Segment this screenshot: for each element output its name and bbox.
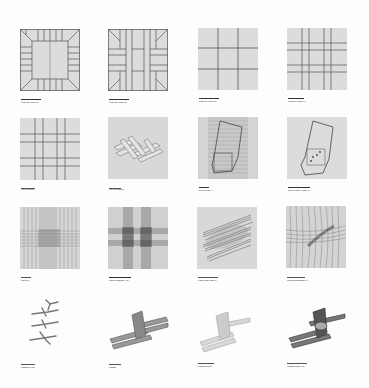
caption-bar — [21, 364, 35, 365]
tile-caption: LINE DRAWING 03 — [199, 100, 216, 102]
stacked-branches-render — [18, 298, 84, 354]
site-outline-points-drawing — [287, 117, 347, 179]
caption-bar — [198, 277, 218, 278]
tile-caption: FIELD INTENSITY 02 — [109, 279, 128, 281]
tile-caption: SITE OVERLAY — [199, 189, 213, 191]
tile-caption: LINE DRAWING 02 — [109, 101, 126, 103]
dark-bundle-model — [285, 304, 351, 360]
woven-model-render — [108, 117, 168, 179]
dense-field-light-drawing — [20, 207, 80, 269]
tile-caption: LINE DRAWING 04 — [288, 100, 305, 102]
caption-bar — [109, 277, 131, 278]
caption-bar — [287, 277, 305, 278]
bevel-corner-grid-drawing — [20, 29, 80, 91]
translucent-bundle-render — [196, 308, 262, 364]
line-drawing-tile-1 — [20, 29, 80, 91]
line-drawing-tile-4 — [287, 28, 347, 90]
rotated-bundles-tile — [197, 207, 257, 269]
distorted-field-drawing — [286, 206, 346, 268]
line-drawing-tile-3 — [198, 28, 258, 90]
distorted-field-tile — [286, 206, 346, 268]
tile-caption: LINE DRAWING 01 — [21, 101, 38, 103]
caption-bar — [21, 277, 31, 278]
dense-field-tile-1 — [20, 207, 80, 269]
tile-caption: SITE OVERLAY DETAIL — [288, 189, 310, 191]
rotated-bundles-drawing — [197, 207, 257, 269]
woven-model-tile — [108, 117, 168, 179]
line-drawing-tile-2 — [108, 29, 168, 91]
caption-bar — [109, 364, 121, 365]
caption-bar — [199, 98, 219, 99]
caption-bar — [109, 188, 121, 189]
cross-bundle-render — [106, 305, 172, 361]
dense-field-tile-2 — [108, 207, 168, 269]
tile-caption: MODEL STACK — [21, 366, 35, 368]
caption-bar — [109, 99, 129, 100]
three-by-three-grid-drawing — [198, 28, 258, 90]
dark-bundle-render — [285, 304, 351, 360]
caption-bar — [288, 98, 304, 99]
cross-bundle-model — [106, 305, 172, 361]
tile-caption: MODEL — [109, 366, 116, 368]
caption-bar — [287, 363, 307, 364]
tile-caption: MODEL STUDY — [198, 365, 212, 367]
site-overlay-detail-tile — [287, 117, 347, 179]
tile-caption: MODEL STUDY 02 — [287, 365, 304, 367]
translucent-bundle-model — [196, 308, 262, 364]
double-line-grid-drawing — [287, 28, 347, 90]
caption-bar — [21, 188, 35, 189]
caption-bar — [288, 187, 310, 188]
tile-caption: FIELD 01 — [21, 279, 29, 281]
site-overlay-tile — [198, 117, 258, 179]
woven-grid-drawing — [20, 118, 80, 180]
tile-caption: FIELD ROTATED 03 — [198, 279, 216, 281]
dense-field-dark-drawing — [108, 207, 168, 269]
caption-bar — [21, 99, 41, 100]
stacked-branches-model — [18, 298, 84, 354]
woven-grid-tile — [20, 118, 80, 180]
site-outline-hatched-drawing — [198, 117, 258, 179]
tile-caption: FIELD DISTORTED 04 — [287, 279, 308, 281]
caption-bar — [198, 363, 214, 364]
caption-bar — [199, 187, 209, 188]
interlock-grid-drawing — [108, 29, 168, 91]
